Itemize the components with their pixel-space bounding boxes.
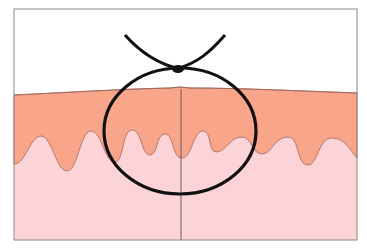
knot bbox=[172, 65, 184, 73]
diagram-canvas bbox=[0, 0, 367, 250]
skin-ligature-diagram bbox=[0, 0, 367, 250]
